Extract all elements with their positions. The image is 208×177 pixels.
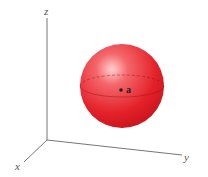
sphere: a <box>80 44 164 128</box>
z-axis-label: z <box>43 5 49 17</box>
x-axis-label: x <box>14 160 20 172</box>
figure: z y x a <box>0 0 208 177</box>
diagram-canvas: z y x a <box>0 0 208 177</box>
x-axis <box>24 140 47 162</box>
center-point <box>119 88 123 92</box>
center-label: a <box>126 84 131 95</box>
y-axis-label: y <box>183 151 189 163</box>
y-axis <box>47 140 182 155</box>
